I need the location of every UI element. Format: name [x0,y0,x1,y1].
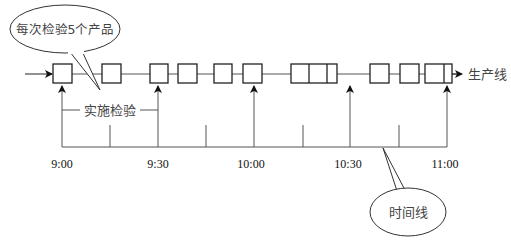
timeline-callout-text: 时间线 [389,205,428,220]
time-label: 9:00 [51,157,72,171]
callout-text: 每次检验5个产品 [16,22,115,37]
time-label: 10:30 [334,157,361,171]
product-box [243,64,262,83]
time-label: 9:30 [147,157,168,171]
product-box [400,64,419,83]
production-line-label: 生产线 [468,67,507,82]
time-label: 11:00 [432,157,459,171]
product-box [370,64,389,83]
inspection-label: 实施检验 [84,103,136,118]
product-box [214,64,232,83]
inspection-diagram: 实施检验 9:00 9:30 10:00 10:30 11:00 生产线 每次检… [0,0,511,244]
product-group [425,64,452,83]
time-label: 10:00 [237,157,264,171]
product-box [178,64,197,83]
time-labels: 9:00 9:30 10:00 10:30 11:00 [51,157,458,171]
product-box [150,64,168,83]
product-box [102,64,121,83]
product-group [291,64,337,83]
product-box [53,64,72,83]
